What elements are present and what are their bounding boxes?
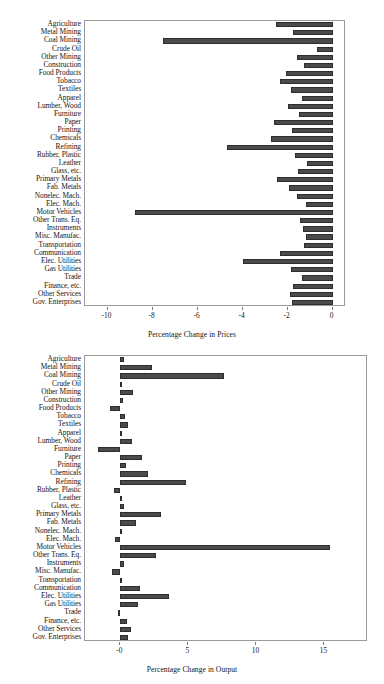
bar-row	[85, 70, 344, 78]
bar	[293, 284, 332, 289]
bar-row	[85, 634, 366, 642]
bar	[120, 463, 125, 468]
bar-row	[85, 577, 366, 585]
bar-row	[85, 209, 344, 217]
bar	[243, 259, 333, 264]
bar	[299, 112, 333, 117]
x-tick-label: -10	[102, 311, 112, 320]
bar	[112, 569, 120, 574]
bar-row	[85, 454, 366, 462]
bar	[288, 104, 333, 109]
bar-row	[85, 78, 344, 86]
bar-row	[85, 397, 366, 405]
bar-row	[85, 585, 366, 593]
x-tick-mark	[242, 307, 243, 310]
bar-row	[85, 266, 344, 274]
bar-row	[85, 528, 366, 536]
bar	[120, 561, 123, 566]
bar	[292, 128, 333, 133]
bar-row	[85, 201, 344, 209]
bar-row	[85, 168, 344, 176]
bar	[292, 300, 333, 305]
x-tick-mark	[197, 307, 198, 310]
figure-two-panel-bar-charts: AgricultureMetal MiningCoal MiningCrude …	[0, 0, 384, 684]
bar-row	[85, 274, 344, 282]
bar	[120, 357, 123, 362]
y-axis-labels-output: AgricultureMetal MiningCoal MiningCrude …	[0, 355, 81, 641]
bar	[120, 602, 138, 607]
bar-row	[85, 413, 366, 421]
x-tick-label: -6	[193, 311, 199, 320]
bar	[120, 398, 123, 403]
bar	[120, 578, 122, 583]
bar	[300, 218, 333, 223]
bar-row	[85, 356, 366, 364]
bar-row	[85, 233, 344, 241]
bar-row	[85, 176, 344, 184]
bar	[120, 471, 147, 476]
bar-row	[85, 258, 344, 266]
bar-row	[85, 560, 366, 568]
bar	[120, 455, 142, 460]
x-tick-label: -4	[238, 311, 244, 320]
bar-row	[85, 62, 344, 70]
x-axis-output: -051015	[84, 642, 367, 664]
bar	[306, 234, 333, 239]
bar	[295, 153, 332, 158]
bar	[120, 390, 132, 395]
x-tick-mark	[323, 642, 324, 645]
bar-row	[85, 135, 344, 143]
bar-row	[85, 601, 366, 609]
bar	[120, 635, 127, 640]
bar	[289, 185, 333, 190]
x-tick-mark	[119, 642, 120, 645]
x-tick-mark	[332, 307, 333, 310]
bar	[120, 594, 169, 599]
bar	[120, 545, 330, 550]
bar-row	[85, 364, 366, 372]
bar	[286, 71, 332, 76]
y-tick-label: Gov. Enterprises	[33, 633, 81, 641]
bar-row	[85, 217, 344, 225]
bar-row	[85, 152, 344, 160]
bar	[163, 38, 333, 43]
x-tick-mark	[287, 307, 288, 310]
bar-series-output	[85, 356, 366, 640]
bar	[120, 382, 122, 387]
bar-row	[85, 511, 366, 519]
bar-row	[85, 495, 366, 503]
bar-row	[85, 389, 366, 397]
bar	[290, 292, 333, 297]
bar-row	[85, 291, 344, 299]
bar	[304, 63, 332, 68]
bar	[317, 47, 333, 52]
bar-row	[85, 54, 344, 62]
bar-row	[85, 193, 344, 201]
bar	[293, 30, 332, 35]
bar	[277, 177, 332, 182]
bar-row	[85, 46, 344, 54]
bar-row	[85, 127, 344, 135]
bar	[306, 202, 333, 207]
bar	[271, 136, 333, 141]
bar-row	[85, 536, 366, 544]
bar-row	[85, 381, 366, 389]
x-tick-label: -8	[148, 311, 154, 320]
x-tick-mark	[152, 307, 153, 310]
bar	[297, 194, 333, 199]
plot-area-prices	[84, 20, 345, 306]
bar-row	[85, 421, 366, 429]
bar-row	[85, 299, 344, 307]
bar	[303, 226, 332, 231]
bar-row	[85, 470, 366, 478]
x-axis-title-prices: Percentage Change in Prices	[0, 330, 384, 339]
bar	[291, 267, 333, 272]
bar-row	[85, 184, 344, 192]
y-axis-labels-prices: AgricultureMetal MiningCoal MiningCrude …	[0, 20, 81, 306]
bar	[280, 79, 333, 84]
bar-row	[85, 446, 366, 454]
bar	[114, 488, 120, 493]
x-tick-label: -0	[116, 646, 122, 655]
bar	[115, 537, 120, 542]
bar	[120, 480, 186, 485]
